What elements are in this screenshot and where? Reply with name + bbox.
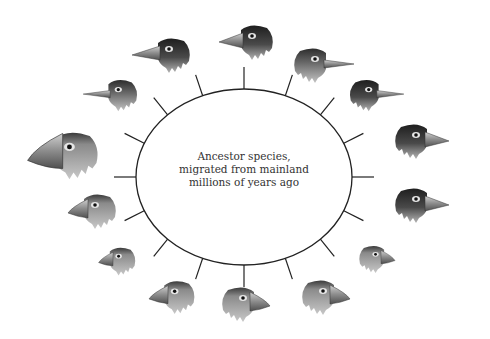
finch-beak — [330, 285, 350, 304]
finch-eye — [321, 289, 325, 293]
finch-eye — [93, 203, 97, 207]
branch-line — [154, 98, 168, 115]
branch-line — [196, 258, 203, 279]
finch-head — [302, 280, 350, 315]
finch-head — [219, 25, 273, 60]
finch-head-feathers — [164, 281, 194, 314]
finch-eye — [117, 88, 120, 91]
finch-eye — [367, 88, 370, 91]
finch-head-feathers — [241, 25, 273, 60]
finch-head-feathers — [302, 280, 334, 315]
finch-beak — [381, 250, 395, 263]
ancestor-label: Ancestor species, migrated from mainland… — [164, 150, 324, 189]
finch-beak — [68, 199, 88, 218]
finch-head — [395, 124, 449, 159]
finch-beak — [219, 33, 243, 48]
branch-line — [320, 239, 334, 256]
ancestor-label-line-2: migrated from mainland — [164, 163, 324, 176]
finch-head-feathers — [222, 287, 254, 322]
finch-eye — [67, 144, 72, 149]
finch-head-feathers — [108, 80, 137, 111]
branch-line — [154, 239, 168, 256]
finch-head — [359, 246, 395, 273]
finch-head — [132, 38, 190, 73]
branch-line — [196, 75, 203, 96]
branch-line — [125, 133, 145, 143]
finch-beak — [83, 91, 110, 98]
finch-head-feathers — [84, 194, 116, 229]
finch-beak — [425, 132, 449, 147]
finch-head — [99, 248, 136, 276]
finch-beak — [28, 133, 63, 168]
finch-beak — [377, 91, 404, 98]
branch-line — [320, 98, 334, 115]
finch-eye — [374, 253, 377, 256]
finch-head-feathers — [110, 248, 135, 276]
finch-head-feathers — [359, 246, 384, 273]
branch-line — [344, 133, 364, 143]
finch-eye — [173, 290, 176, 293]
finch-eye — [241, 296, 245, 300]
finch-head — [222, 287, 270, 322]
finch-eye — [250, 34, 254, 38]
finch-head-feathers — [395, 188, 427, 223]
branch-line — [125, 211, 145, 221]
finch-head — [68, 194, 116, 229]
finch-head — [83, 80, 137, 111]
finch-head-feathers — [350, 80, 379, 111]
finch-head-feathers — [395, 124, 427, 159]
finch-head-feathers — [294, 48, 326, 83]
finch-eye — [313, 57, 317, 61]
finch-head-feathers — [158, 38, 190, 73]
branch-line — [285, 258, 292, 279]
finch-head — [294, 48, 354, 83]
finch-head — [149, 281, 194, 314]
finch-eye — [167, 47, 171, 51]
ancestor-label-line-1: Ancestor species, — [164, 150, 324, 163]
finch-beak — [99, 252, 113, 266]
finch-beak — [250, 292, 270, 311]
finch-eye — [117, 255, 120, 258]
finch-beak — [324, 60, 354, 68]
finch-beak — [132, 46, 160, 60]
finch-head — [395, 188, 449, 223]
finch-eye — [414, 197, 418, 201]
branch-line — [285, 75, 292, 96]
finch-beak — [149, 286, 168, 304]
branch-line — [344, 211, 364, 221]
finch-head — [28, 133, 98, 180]
finch-head — [350, 80, 404, 111]
finch-eye — [414, 133, 418, 137]
ancestor-label-line-3: millions of years ago — [164, 176, 324, 189]
finch-beak — [425, 196, 449, 211]
